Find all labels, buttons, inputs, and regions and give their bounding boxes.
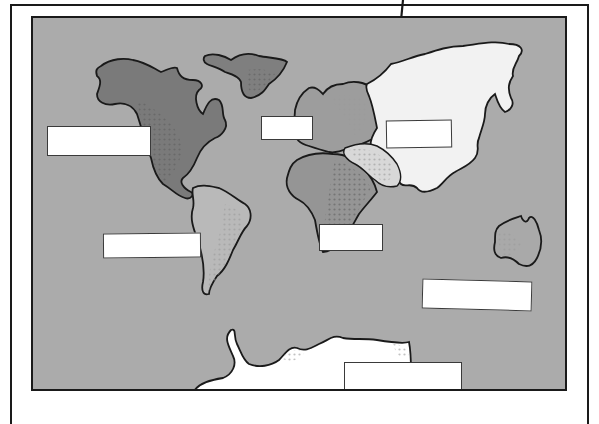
label-africa[interactable] [319,224,383,251]
label-antarctica[interactable] [344,362,462,391]
world-map [31,16,567,391]
continent-australia [494,216,541,266]
label-south-america[interactable] [103,233,201,259]
label-pacific[interactable] [422,279,533,312]
label-asia[interactable] [386,119,452,148]
label-north-america[interactable] [47,126,151,156]
label-europe[interactable] [261,116,313,140]
